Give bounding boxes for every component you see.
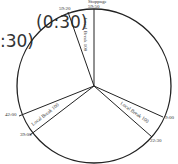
marker-label-39-00: 39:00 [20, 132, 32, 137]
radial-line-42-00 [19, 86, 94, 116]
marker-label-59-20: 59:20 [59, 6, 71, 11]
marker-label-9-00: 9:00 [165, 115, 174, 120]
radial-line-9-00 [94, 86, 163, 117]
radial-line-59-20 [68, 12, 94, 86]
radial-line-22-30 [94, 86, 152, 137]
clock-diagram: Stoppage 59:50 59:20 9:00 22:30 42:00 39… [0, 0, 178, 164]
marker-label-22-30: 22:30 [150, 138, 162, 143]
segment-label-top: Local Break 100 [83, 18, 88, 52]
marker-label-59-50: 59:50 [88, 4, 100, 9]
marker-label-42-00: 42:00 [5, 112, 17, 117]
radial-line-39-00 [30, 86, 94, 135]
